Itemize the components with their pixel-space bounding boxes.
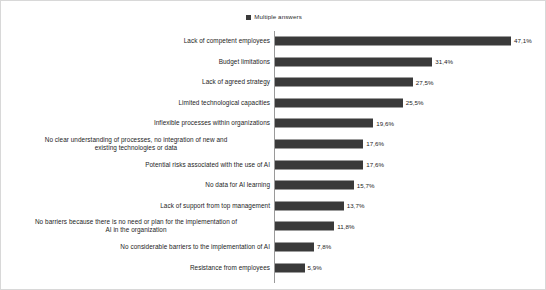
bar-value-label: 17,6%: [366, 161, 384, 167]
bar-value-label: 31,4%: [435, 58, 453, 64]
bar-row: Potential risks associated with the use …: [1, 155, 546, 175]
bar-track: 31,4%: [275, 57, 453, 66]
bar-category-label: No clear understanding of processes, no …: [2, 136, 270, 151]
chart-legend: Multiple answers: [1, 11, 546, 23]
bar-value-label: 7,8%: [317, 244, 331, 250]
legend-swatch-icon: [246, 15, 251, 20]
bar-value-label: 11,8%: [337, 223, 354, 229]
bar-track: 19,6%: [275, 119, 394, 128]
bar-value-label: 15,7%: [357, 182, 375, 188]
bar-chart: Multiple answers Lack of competent emplo…: [0, 0, 546, 290]
bar-track: 13,7%: [275, 201, 364, 210]
bar-row: Resistance from employees5,9%: [1, 258, 546, 278]
bar-category-label: Budget limitations: [2, 58, 270, 66]
bar-row: No considerable barriers to the implemen…: [1, 237, 546, 257]
bar-category-label: No data for AI learning: [2, 181, 270, 189]
bar-track: 25,5%: [275, 98, 424, 107]
bar-rect: [275, 119, 373, 128]
bar-category-label: Lack of agreed strategy: [2, 78, 270, 86]
bar-row: No barriers because there is no need or …: [1, 216, 546, 236]
bar-rect: [275, 78, 413, 87]
bar-row: Limited technological capacities25,5%: [1, 93, 546, 113]
bar-track: 17,6%: [275, 140, 384, 149]
bar-rect: [275, 263, 305, 272]
bar-rect: [275, 37, 511, 46]
bar-row: Lack of competent employees47,1%: [1, 31, 546, 51]
bar-rect: [275, 140, 363, 149]
bar-rect: [275, 243, 314, 252]
bar-rect: [275, 222, 334, 231]
bar-value-label: 25,5%: [406, 100, 424, 106]
bar-category-label: Lack of support from top management: [2, 202, 270, 210]
legend-item-label: Multiple answers: [254, 14, 302, 20]
bar-value-label: 47,1%: [514, 38, 532, 44]
bar-track: 47,1%: [275, 37, 532, 46]
bar-value-label: 19,6%: [376, 120, 394, 126]
plot-area: Lack of competent employees47,1%Budget l…: [1, 29, 546, 287]
bar-value-label: 17,6%: [366, 141, 384, 147]
bar-track: 27,5%: [275, 78, 434, 87]
bar-value-label: 27,5%: [416, 79, 434, 85]
bar-row: No data for AI learning15,7%: [1, 175, 546, 195]
bar-rect: [275, 181, 354, 190]
bar-rect: [275, 57, 432, 66]
bar-row: No clear understanding of processes, no …: [1, 134, 546, 154]
bar-track: 11,8%: [275, 222, 354, 231]
bar-row: Lack of support from top management13,7%: [1, 196, 546, 216]
bar-category-label: Limited technological capacities: [2, 99, 270, 107]
bar-row: Budget limitations31,4%: [1, 52, 546, 72]
bar-rect: [275, 160, 363, 169]
bar-category-label: Resistance from employees: [2, 264, 270, 272]
bar-track: 7,8%: [275, 243, 331, 252]
bar-track: 17,6%: [275, 160, 384, 169]
bar-rect: [275, 98, 403, 107]
bar-value-label: 13,7%: [347, 203, 365, 209]
bar-track: 5,9%: [275, 263, 322, 272]
bar-value-label: 5,9%: [308, 264, 322, 270]
bar-category-label: No considerable barriers to the implemen…: [2, 243, 270, 251]
bar-category-label: Potential risks associated with the use …: [2, 161, 270, 169]
bar-category-label: Inflexible processes within organization…: [2, 120, 270, 128]
bar-row: Inflexible processes within organization…: [1, 113, 546, 133]
bar-track: 15,7%: [275, 181, 374, 190]
bar-category-label: Lack of competent employees: [2, 37, 270, 45]
bar-category-label: No barriers because there is no need or …: [2, 219, 270, 234]
bar-rect: [275, 201, 344, 210]
bar-row: Lack of agreed strategy27,5%: [1, 72, 546, 92]
